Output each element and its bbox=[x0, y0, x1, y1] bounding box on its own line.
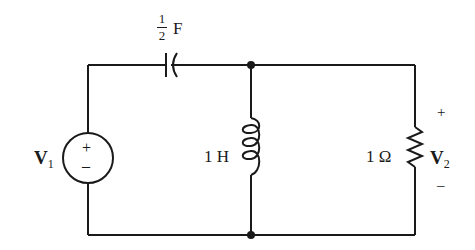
resistor-label: 1 Ω bbox=[366, 148, 391, 165]
node-dot-bottom bbox=[247, 231, 255, 239]
source-plus: + bbox=[82, 140, 91, 156]
capacitor-numerator: 1 bbox=[156, 12, 168, 25]
output-label: V2 bbox=[430, 148, 450, 170]
output-minus: – bbox=[437, 178, 445, 193]
capacitor-unit: F bbox=[173, 20, 182, 37]
source-label: V1 bbox=[34, 148, 54, 170]
source-minus: – bbox=[82, 158, 90, 174]
source-label-subscript: 1 bbox=[48, 157, 54, 171]
node-dot-top bbox=[247, 61, 255, 69]
output-label-main: V bbox=[430, 147, 444, 168]
resistor-zigzag bbox=[408, 127, 422, 167]
inductor-coil bbox=[243, 118, 260, 175]
capacitor-denominator: 2 bbox=[156, 29, 168, 42]
output-label-subscript: 2 bbox=[444, 157, 450, 171]
output-plus: + bbox=[437, 105, 445, 120]
source-label-main: V bbox=[34, 147, 48, 168]
inductor-label: 1 H bbox=[204, 148, 229, 165]
circuit-diagram bbox=[0, 0, 475, 250]
